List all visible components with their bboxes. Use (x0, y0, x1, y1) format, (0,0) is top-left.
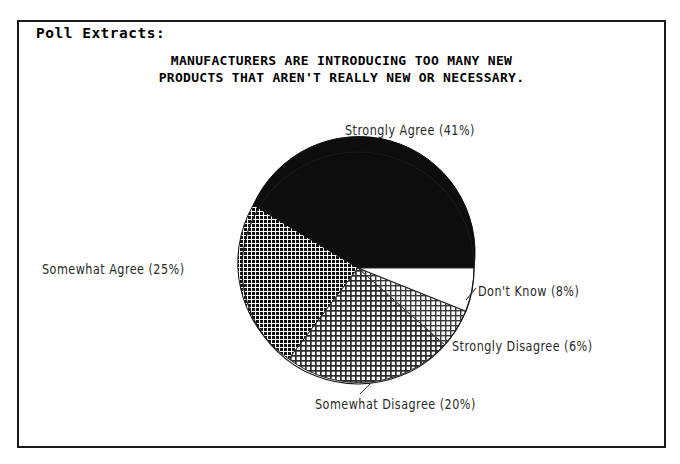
pie-label-somewhat-disagree: Somewhat Disagree (20%) (315, 396, 476, 412)
pie-label-dont-know: Don't Know (8%) (478, 283, 579, 299)
pie-label-somewhat-agree: Somewhat Agree (25%) (42, 261, 185, 277)
pie-chart-svg (0, 0, 680, 464)
pie-label-strongly-agree: Strongly Agree (41%) (345, 122, 475, 138)
poll-extract-page: Poll Extracts: MANUFACTURERS ARE INTRODU… (0, 0, 680, 464)
leader-line-somewhat-disagree (360, 384, 370, 394)
pie-label-strongly-disagree: Strongly Disagree (6%) (452, 338, 593, 354)
pie-chart (0, 0, 680, 464)
